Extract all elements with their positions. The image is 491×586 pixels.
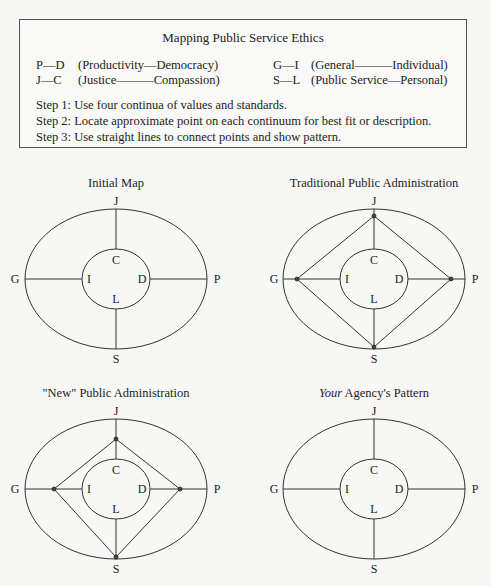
label-d: D bbox=[395, 482, 404, 496]
label-d: D bbox=[138, 482, 147, 496]
label-g: G bbox=[11, 482, 20, 496]
point-marker bbox=[295, 277, 299, 281]
map-title-new-pa: "New" Public Administration bbox=[42, 386, 190, 400]
label-s: S bbox=[113, 352, 120, 366]
label-g: G bbox=[11, 272, 20, 286]
label-i: I bbox=[345, 482, 349, 496]
label-s: S bbox=[113, 562, 120, 576]
label-l: L bbox=[112, 292, 119, 306]
label-l: L bbox=[370, 502, 377, 516]
label-c: C bbox=[112, 463, 120, 477]
label-l: L bbox=[112, 502, 119, 516]
title-italic-prefix: Your bbox=[319, 386, 342, 400]
map-title-traditional: Traditional Public Administration bbox=[290, 176, 459, 190]
title-rest: Agency's Pattern bbox=[342, 386, 430, 400]
label-g: G bbox=[270, 272, 279, 286]
label-i: I bbox=[87, 272, 91, 286]
label-s: S bbox=[371, 562, 378, 576]
point-marker bbox=[52, 487, 56, 491]
label-j: J bbox=[372, 404, 377, 418]
point-marker bbox=[178, 487, 182, 491]
label-l: L bbox=[370, 292, 377, 306]
map-initial bbox=[25, 209, 207, 349]
point-marker bbox=[372, 214, 376, 218]
label-c: C bbox=[370, 253, 378, 267]
label-i: I bbox=[345, 272, 349, 286]
map-title-initial: Initial Map bbox=[88, 176, 144, 190]
label-j: J bbox=[114, 404, 119, 418]
label-p: P bbox=[214, 272, 221, 286]
map-title-your-agency: Your Agency's Pattern bbox=[319, 386, 430, 400]
label-j: J bbox=[114, 194, 119, 208]
point-marker bbox=[372, 345, 376, 349]
label-g: G bbox=[270, 482, 279, 496]
label-d: D bbox=[138, 272, 147, 286]
label-i: I bbox=[87, 482, 91, 496]
label-c: C bbox=[112, 253, 120, 267]
point-marker bbox=[114, 437, 118, 441]
map-your-agency bbox=[283, 419, 465, 559]
label-d: D bbox=[395, 272, 404, 286]
label-p: P bbox=[472, 482, 479, 496]
label-s: S bbox=[371, 352, 378, 366]
label-c: C bbox=[370, 463, 378, 477]
point-marker bbox=[449, 277, 453, 281]
map-traditional bbox=[283, 209, 465, 349]
point-marker bbox=[114, 555, 118, 559]
label-j: J bbox=[372, 194, 377, 208]
ethics-maps: Initial Map Traditional Public Administr… bbox=[0, 0, 491, 586]
label-p: P bbox=[214, 482, 221, 496]
label-p: P bbox=[472, 272, 479, 286]
